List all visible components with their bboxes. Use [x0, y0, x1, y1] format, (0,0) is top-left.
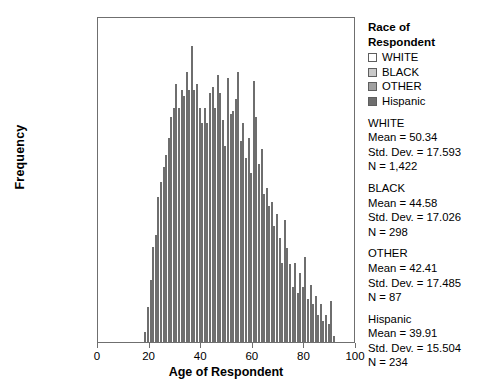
legend-stat-group: WHITEMean = 50.34Std. Dev. = 17.593N = 1… — [368, 116, 478, 174]
legend-stat-std-dev: Std. Dev. = 17.485 — [368, 276, 478, 291]
x-axis-tick-label: 80 — [297, 350, 310, 362]
legend: Race of Respondent WHITEBLACKOTHERHispan… — [368, 20, 478, 370]
x-axis-tick-mark — [252, 343, 253, 348]
x-axis-tick-label: 60 — [245, 350, 258, 362]
legend-swatch-icon — [368, 97, 377, 106]
legend-title-line1: Race of — [368, 20, 478, 35]
legend-item-label: BLACK — [382, 65, 419, 80]
legend-stat-group: BLACKMean = 44.58Std. Dev. = 17.026N = 2… — [368, 181, 478, 239]
legend-item: Hispanic — [368, 94, 478, 109]
legend-swatch-icon — [368, 53, 377, 62]
legend-stat-std-dev: Std. Dev. = 17.593 — [368, 145, 478, 160]
legend-stat-group-name: OTHER — [368, 246, 478, 261]
legend-item-label: WHITE — [382, 50, 418, 65]
x-axis-tick-label: 100 — [345, 350, 364, 362]
legend-stat-group: OTHERMean = 42.41Std. Dev. = 17.485N = 8… — [368, 246, 478, 304]
legend-items: WHITEBLACKOTHERHispanic — [368, 50, 478, 108]
legend-title: Race of Respondent — [368, 20, 478, 49]
legend-item: WHITE — [368, 50, 478, 65]
x-axis-tick-label: 40 — [194, 350, 207, 362]
plot-area — [97, 17, 355, 343]
legend-stat-group-name: Hispanic — [368, 312, 478, 327]
legend-item: BLACK — [368, 65, 478, 80]
legend-title-line2: Respondent — [368, 35, 478, 50]
legend-stat-mean: Mean = 44.58 — [368, 196, 478, 211]
histogram-bar — [333, 336, 335, 342]
bars-container — [98, 18, 354, 342]
legend-stat-n: N = 87 — [368, 290, 478, 305]
x-axis-tick-mark — [303, 343, 304, 348]
legend-swatch-icon — [368, 68, 377, 77]
legend-stat-group: HispanicMean = 39.91Std. Dev. = 15.504N … — [368, 312, 478, 370]
legend-stat-n: N = 1,422 — [368, 159, 478, 174]
histogram-figure: Frequency 0.020.040.060.080.0100.0 Age o… — [0, 0, 478, 381]
y-axis-label: Frequency — [13, 82, 27, 232]
legend-stat-group-name: WHITE — [368, 116, 478, 131]
y-axis: Frequency 0.020.040.060.080.0100.0 — [0, 0, 97, 381]
legend-stat-n: N = 298 — [368, 225, 478, 240]
x-axis-tick-mark — [200, 343, 201, 348]
legend-stat-mean: Mean = 42.41 — [368, 261, 478, 276]
x-axis-tick-mark — [355, 343, 356, 348]
legend-stat-mean: Mean = 50.34 — [368, 130, 478, 145]
x-axis-tick-mark — [97, 343, 98, 348]
legend-stat-n: N = 234 — [368, 355, 478, 370]
legend-item: OTHER — [368, 79, 478, 94]
legend-statistics: WHITEMean = 50.34Std. Dev. = 17.593N = 1… — [368, 116, 478, 371]
legend-stat-std-dev: Std. Dev. = 17.026 — [368, 210, 478, 225]
bar-segment-white — [333, 336, 335, 342]
x-axis-tick-mark — [149, 343, 150, 348]
legend-stat-group-name: BLACK — [368, 181, 478, 196]
legend-stat-std-dev: Std. Dev. = 15.504 — [368, 341, 478, 356]
legend-stat-mean: Mean = 39.91 — [368, 326, 478, 341]
legend-item-label: OTHER — [382, 79, 422, 94]
legend-swatch-icon — [368, 82, 377, 91]
legend-item-label: Hispanic — [382, 94, 425, 109]
x-axis-tick-label: 0 — [94, 350, 100, 362]
x-axis-label: Age of Respondent — [97, 365, 355, 379]
x-axis-tick-label: 20 — [142, 350, 155, 362]
